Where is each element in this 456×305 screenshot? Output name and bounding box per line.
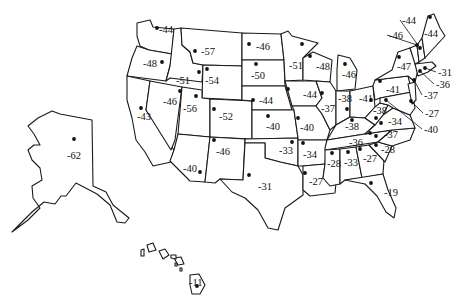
- station-dot-icon: [374, 143, 378, 147]
- temp-label-minnesota: -51: [289, 60, 303, 71]
- state-hawaii-molokai: [171, 255, 176, 259]
- station-dot-icon: [308, 54, 312, 58]
- temp-label-wyoming: -54: [205, 75, 220, 86]
- station-dot-icon: [193, 49, 197, 53]
- temp-label-michigan: -46: [342, 69, 356, 80]
- temp-label-kansas: -40: [266, 121, 280, 132]
- temp-label-maryland: -40: [424, 124, 438, 135]
- temp-label-hawaii: -11: [189, 277, 203, 288]
- station-dot-icon: [286, 87, 290, 91]
- temp-label-south-carolina: -28: [381, 144, 395, 155]
- temp-label-ohio: -41: [359, 93, 373, 104]
- temp-label-arizona: -40: [183, 163, 197, 174]
- station-dot-icon: [330, 151, 334, 155]
- station-dot-icon: [300, 42, 304, 46]
- station-dot-icon: [160, 60, 164, 64]
- temp-label-oklahoma: -33: [279, 145, 293, 156]
- station-dot-icon: [369, 181, 373, 185]
- station-dot-icon: [212, 138, 216, 142]
- state-hawaii-niihau: [141, 249, 144, 256]
- station-dot-icon: [303, 171, 307, 175]
- station-dot-icon: [72, 137, 76, 141]
- temp-label-virginia: -34: [388, 116, 403, 127]
- temp-label-new-jersey: -37: [424, 90, 438, 101]
- station-dot-icon: [266, 114, 270, 118]
- station-dot-icon: [212, 107, 216, 111]
- temp-label-new-mexico: -46: [216, 146, 230, 157]
- station-dot-icon: [247, 173, 251, 177]
- station-dot-icon: [418, 46, 422, 50]
- station-dot-icon: [197, 70, 201, 74]
- station-dot-icon: [379, 121, 383, 125]
- temp-label-georgia: -27: [363, 153, 377, 164]
- temp-label-arkansas: -34: [303, 149, 318, 160]
- temp-label-oregon: -48: [143, 58, 157, 69]
- temp-label-missouri: -40: [300, 122, 314, 133]
- temp-label-north-dakota: -46: [256, 41, 270, 52]
- temp-label-rhode-island-massachusetts: -31: [438, 67, 452, 78]
- station-dot-icon: [384, 98, 388, 102]
- temp-label-new-york: -47: [397, 61, 411, 72]
- station-dot-icon: [301, 141, 305, 145]
- temp-label-delaware: -27: [425, 108, 439, 119]
- temp-label-idaho: -51: [176, 75, 190, 86]
- temp-label-indiana: -38: [338, 93, 352, 104]
- temp-label-new-hampshire: -44: [402, 15, 417, 26]
- station-dot-icon: [374, 134, 378, 138]
- temp-label-tennessee: -36: [349, 137, 363, 148]
- station-dot-icon: [296, 116, 300, 120]
- state-hawaii-kahoolawe: [180, 268, 182, 271]
- temp-label-maine: -44: [424, 28, 439, 39]
- temp-label-south-dakota: -50: [251, 70, 265, 81]
- station-dot-icon: [320, 91, 324, 95]
- temp-label-iowa: -44: [303, 89, 318, 100]
- temp-label-nevada: -46: [163, 96, 177, 107]
- station-dot-icon: [290, 140, 294, 144]
- station-dot-icon: [205, 67, 209, 71]
- state-hawaii-kauai: [147, 243, 156, 252]
- station-dot-icon: [251, 98, 255, 102]
- state-arizona: [170, 134, 210, 182]
- station-dot-icon: [409, 99, 413, 103]
- temp-label-kentucky: -38: [345, 121, 359, 132]
- temp-label-california: -43: [137, 111, 151, 122]
- temp-label-west-virginia: -38: [373, 105, 387, 116]
- station-dot-icon: [346, 150, 350, 154]
- temp-label-pennsylvania: -41: [386, 84, 400, 95]
- temp-label-alabama: -33: [344, 157, 358, 168]
- station-dot-icon: [247, 42, 251, 46]
- station-dot-icon: [428, 15, 432, 19]
- temp-label-montana: -57: [201, 46, 215, 57]
- station-dot-icon: [412, 78, 416, 82]
- station-dot-icon: [178, 89, 182, 93]
- station-dot-icon: [358, 147, 362, 151]
- temp-label-mississippi: -28: [327, 158, 341, 169]
- temp-label-alaska: -62: [67, 150, 81, 161]
- station-dot-icon: [139, 106, 143, 110]
- station-dot-icon: [368, 131, 372, 135]
- temp-label-texas: -31: [258, 181, 272, 192]
- state-new-mexico: [205, 137, 245, 183]
- temp-label-florida: -19: [384, 187, 398, 198]
- station-dot-icon: [343, 62, 347, 66]
- station-dot-icon: [423, 66, 427, 70]
- state-hawaii-oahu: [159, 249, 169, 259]
- state-alaska: [12, 111, 129, 232]
- station-dot-icon: [198, 170, 202, 174]
- station-dot-icon: [345, 107, 349, 111]
- temp-label-illinois: -37: [321, 103, 335, 114]
- temp-label-washington: -44: [159, 24, 174, 35]
- temp-label-vermont: -46: [389, 30, 403, 41]
- station-dot-icon: [254, 62, 258, 66]
- temp-label-nebraska: -44: [259, 95, 274, 106]
- temp-label-north-carolina: -37: [384, 129, 398, 140]
- temp-label-wisconsin: -48: [316, 61, 330, 72]
- station-dot-icon: [374, 116, 378, 120]
- temp-label-utah: -56: [183, 103, 197, 114]
- state-hawaii-lanai: [175, 263, 177, 266]
- station-dot-icon: [378, 79, 382, 83]
- temp-label-colorado: -52: [219, 111, 233, 122]
- us-map: -44-48-43-51-46-57-54-56-52-40-46-46-50-…: [0, 0, 456, 305]
- temp-label-louisiana: -27: [309, 176, 323, 187]
- station-dot-icon: [194, 94, 198, 98]
